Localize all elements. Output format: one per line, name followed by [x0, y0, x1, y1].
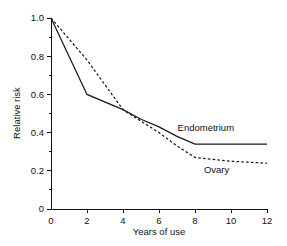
y-tick-label: 0	[39, 203, 44, 214]
x-tick-label: 10	[226, 215, 237, 226]
y-tick-label: 1.0	[31, 12, 44, 23]
x-axis-group: 024681012 Years of use	[48, 209, 272, 237]
x-axis-title: Years of use	[133, 226, 185, 237]
series-annotations: EndometriumOvary	[178, 122, 235, 175]
chart-canvas: 00.20.40.60.81.0 Relative risk 024681012…	[0, 0, 287, 246]
data-series-group	[51, 18, 267, 163]
series-annotation-label: Ovary	[204, 164, 230, 175]
x-tick-label: 4	[120, 215, 125, 226]
relative-risk-chart: 00.20.40.60.81.0 Relative risk 024681012…	[0, 0, 287, 246]
series-line-endometrium	[51, 18, 267, 144]
x-axis-tick-labels: 024681012	[48, 215, 272, 226]
y-tick-label: 0.8	[31, 51, 44, 62]
y-tick-label: 0.2	[31, 165, 44, 176]
y-tick-label: 0.6	[31, 89, 44, 100]
x-tick-label: 0	[48, 215, 53, 226]
series-line-ovary	[51, 18, 267, 163]
y-axis-group: 00.20.40.60.81.0 Relative risk	[11, 12, 51, 214]
x-tick-label: 8	[192, 215, 197, 226]
series-annotation-label: Endometrium	[178, 122, 235, 133]
x-tick-label: 2	[84, 215, 89, 226]
x-tick-label: 6	[156, 215, 161, 226]
y-axis-title: Relative risk	[11, 87, 22, 139]
x-axis-major-ticks	[87, 209, 267, 213]
x-tick-label: 12	[262, 215, 273, 226]
y-tick-label: 0.4	[31, 127, 44, 138]
y-axis-tick-labels: 00.20.40.60.81.0	[31, 12, 44, 214]
